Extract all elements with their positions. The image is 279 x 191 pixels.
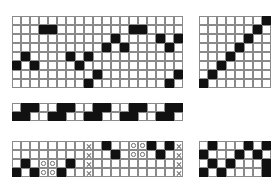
filled-cell [21,52,30,61]
empty-cell [93,79,102,88]
empty-cell [226,70,235,79]
empty-cell [165,34,174,43]
empty-cell [93,16,102,25]
empty-cell [75,141,84,150]
filled-cell [147,141,156,150]
empty-cell [111,159,120,168]
empty-cell [165,150,174,159]
empty-cell [235,25,244,34]
filled-cell [21,159,30,168]
empty-cell [120,103,129,112]
empty-cell [262,70,271,79]
empty-cell [111,16,120,25]
empty-cell [253,52,262,61]
filled-cell [156,150,165,159]
empty-cell [84,61,93,70]
empty-cell [75,34,84,43]
empty-cell [262,25,271,34]
empty-cell [111,43,120,52]
empty-cell [93,168,102,177]
empty-cell [138,79,147,88]
empty-cell [217,25,226,34]
empty-cell [262,61,271,70]
empty-cell [253,141,262,150]
filled-cell [262,168,271,177]
filled-cell [165,103,174,112]
filled-cell [208,159,217,168]
empty-cell [39,70,48,79]
empty-cell [75,52,84,61]
empty-cell [156,25,165,34]
filled-cell [156,112,165,121]
empty-cell [208,25,217,34]
empty-cell [217,52,226,61]
empty-cell [129,168,138,177]
filled-cell [57,168,66,177]
empty-cell [217,16,226,25]
empty-cell [226,150,235,159]
empty-cell [138,34,147,43]
empty-cell [147,168,156,177]
empty-cell [48,16,57,25]
circle-cell [48,159,57,168]
empty-cell [208,79,217,88]
empty-cell [156,70,165,79]
cross-cell [174,168,183,177]
filled-cell [165,141,174,150]
empty-cell [217,43,226,52]
empty-cell [244,159,253,168]
empty-cell [30,112,39,121]
empty-cell [199,34,208,43]
filled-cell [138,25,147,34]
empty-cell [48,141,57,150]
empty-cell [199,61,208,70]
empty-cell [93,34,102,43]
empty-cell [102,61,111,70]
empty-cell [156,79,165,88]
empty-cell [21,25,30,34]
empty-cell [253,70,262,79]
filled-cell [21,112,30,121]
empty-cell [21,61,30,70]
empty-cell [75,70,84,79]
empty-cell [57,70,66,79]
filled-cell [12,168,21,177]
empty-cell [57,79,66,88]
cross-cell [84,141,93,150]
filled-cell [102,103,111,112]
empty-cell [111,168,120,177]
empty-cell [156,159,165,168]
empty-cell [21,16,30,25]
filled-cell [138,103,147,112]
empty-cell [147,52,156,61]
filled-cell [262,141,271,150]
empty-cell [30,16,39,25]
empty-cell [66,16,75,25]
middle-strip-grid [12,103,183,121]
empty-cell [57,150,66,159]
filled-cell [120,43,129,52]
empty-cell [174,52,183,61]
empty-cell [102,16,111,25]
empty-cell [120,25,129,34]
circle-cell [48,168,57,177]
empty-cell [48,43,57,52]
empty-cell [156,16,165,25]
empty-cell [66,25,75,34]
filled-cell [12,112,21,121]
empty-cell [262,52,271,61]
empty-cell [262,150,271,159]
filled-cell [66,52,75,61]
filled-cell [262,16,271,25]
empty-cell [48,61,57,70]
empty-cell [147,61,156,70]
empty-cell [66,43,75,52]
empty-cell [235,168,244,177]
empty-cell [244,52,253,61]
empty-cell [75,43,84,52]
filled-cell [174,34,183,43]
filled-cell [57,112,66,121]
filled-cell [93,103,102,112]
empty-cell [12,34,21,43]
bottom-left-grid [12,141,183,177]
